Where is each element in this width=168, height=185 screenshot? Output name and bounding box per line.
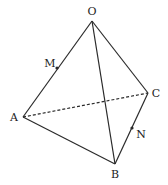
diagram-svg: O A B C M N xyxy=(0,0,168,185)
edges xyxy=(23,21,148,164)
edge-AC xyxy=(23,93,148,117)
label-C: C xyxy=(152,87,160,100)
point-N xyxy=(130,126,133,129)
label-B: B xyxy=(111,168,119,181)
label-O: O xyxy=(87,5,96,18)
tetrahedron-diagram: O A B C M N xyxy=(0,0,168,185)
point-M xyxy=(55,66,58,69)
edge-AB xyxy=(23,117,115,164)
label-M: M xyxy=(44,57,55,70)
label-A: A xyxy=(9,111,19,124)
edge-OC xyxy=(92,21,148,93)
edge-OB xyxy=(92,21,115,164)
label-N: N xyxy=(136,128,146,141)
